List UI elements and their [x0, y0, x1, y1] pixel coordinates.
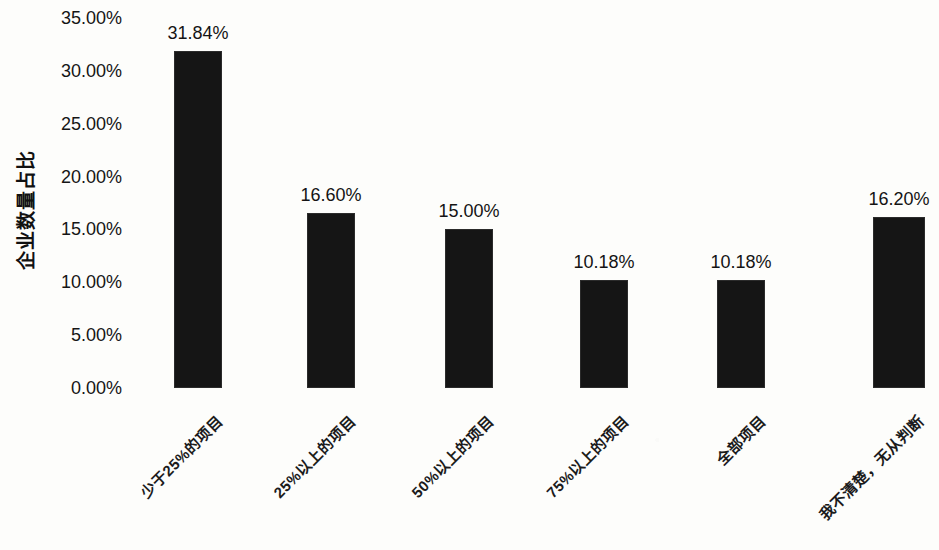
bar-chart: 企业数量占比 35.00%30.00%25.00%20.00%15.00%10.…: [0, 0, 939, 550]
bar: [174, 51, 222, 388]
y-axis-tick-25: 25.00%: [36, 113, 122, 134]
bar-value-label: 16.20%: [868, 189, 929, 210]
bar: [445, 229, 493, 388]
bar: [307, 213, 355, 388]
x-axis-category-label: 我不清楚，无从判断: [814, 410, 927, 523]
y-axis-tick-labels: 35.00%30.00%25.00%20.00%15.00%10.00%5.00…: [36, 0, 122, 550]
bar-value-label: 10.18%: [573, 252, 634, 273]
y-axis-tick-15: 15.00%: [36, 219, 122, 240]
x-axis-category-label: 全部项目: [711, 410, 770, 469]
x-axis-category-label: 75%以上的项目: [541, 410, 633, 502]
x-axis-category-label: 少于25%的项目: [135, 410, 227, 502]
bar: [873, 217, 925, 388]
plot-area: 31.84%16.60%15.00%10.18%10.18%16.20% 少于2…: [132, 0, 939, 550]
y-axis-tick-0: 0.00%: [36, 378, 122, 399]
bar: [580, 280, 628, 388]
bar-value-label: 31.84%: [167, 23, 228, 44]
y-axis-tick-10: 10.00%: [36, 272, 122, 293]
bar-value-label: 16.60%: [300, 185, 361, 206]
bar: [717, 280, 765, 388]
bar-value-label: 10.18%: [710, 252, 771, 273]
x-axis-category-label: 50%以上的项目: [406, 410, 498, 502]
y-axis-tick-5: 5.00%: [36, 325, 122, 346]
bar-value-label: 15.00%: [438, 201, 499, 222]
y-axis-title: 企业数量占比: [11, 100, 38, 320]
x-axis-category-label: 25%以上的项目: [268, 410, 360, 502]
y-axis-tick-35: 35.00%: [36, 8, 122, 29]
y-axis-tick-30: 30.00%: [36, 60, 122, 81]
y-axis-tick-20: 20.00%: [36, 166, 122, 187]
